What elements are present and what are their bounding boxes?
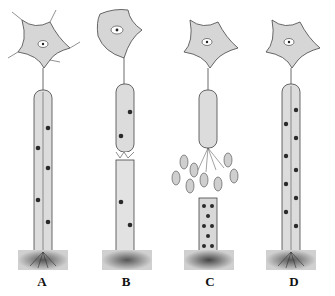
neuron-normal-illustration [0,0,84,296]
neuron-injured-illustration [84,0,168,296]
neuron-regenerating-illustration [168,0,252,296]
panel-label-a: A [0,274,84,290]
nerve-regeneration-diagram: A B [0,0,335,296]
panel-c: C [168,0,252,296]
panel-label-d: D [252,274,335,290]
panel-label-c: C [168,274,252,290]
panel-b: B [84,0,168,296]
panel-d: D [252,0,335,296]
neuron-regenerated-illustration [252,0,335,296]
panel-label-b: B [84,274,168,290]
panel-a: A [0,0,84,296]
